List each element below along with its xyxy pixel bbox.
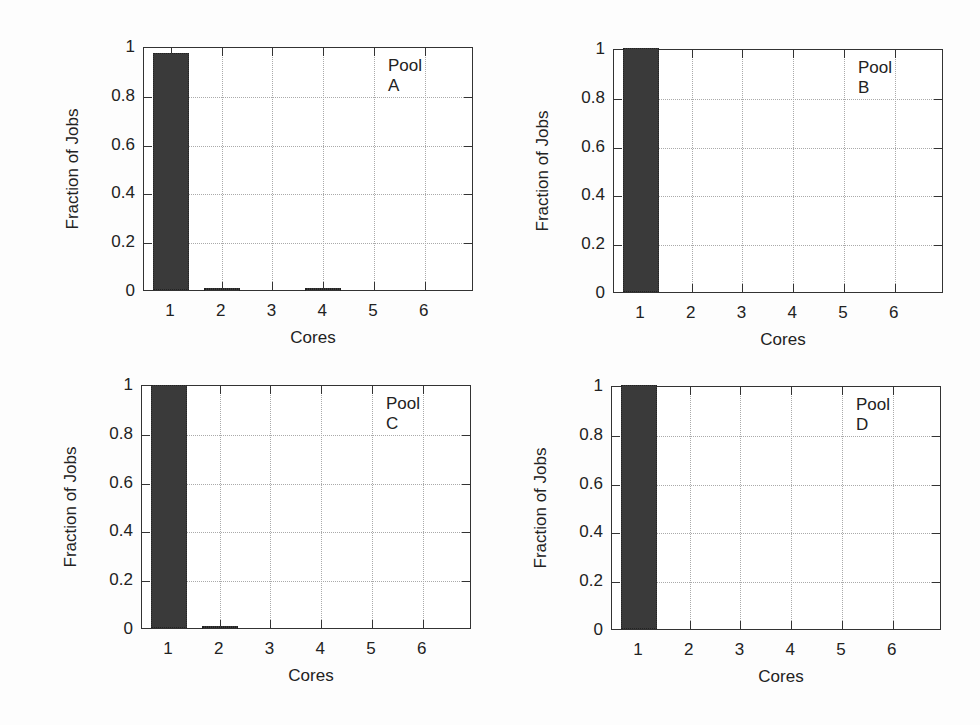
y-tick [932, 436, 940, 437]
y-tick-label: 0.4 [563, 523, 603, 540]
x-tick [895, 50, 896, 58]
gridline-horizontal [614, 196, 942, 197]
bar-cores-2 [202, 626, 238, 628]
y-tick-label: 0.2 [93, 571, 133, 588]
x-tick-label: 1 [160, 302, 180, 319]
y-tick [462, 581, 470, 582]
x-tick [423, 620, 424, 628]
x-tick [374, 282, 375, 290]
y-tick-label: 0.2 [565, 235, 605, 252]
plot-area [141, 385, 471, 629]
y-tick-label: 0.6 [563, 475, 603, 492]
y-tick-label: 0 [93, 620, 133, 637]
x-tick [893, 621, 894, 629]
x-tick-label: 1 [628, 641, 648, 658]
gridline-vertical [272, 48, 273, 290]
bar-cores-1 [621, 385, 657, 629]
x-tick [270, 386, 271, 394]
y-tick [612, 485, 620, 486]
y-tick [934, 148, 942, 149]
gridline-horizontal [614, 99, 942, 100]
y-tick-label: 1 [565, 40, 605, 57]
y-tick [462, 532, 470, 533]
y-tick-label: 0.6 [565, 138, 605, 155]
bar-cores-1 [623, 48, 659, 292]
x-tick-label: 2 [679, 641, 699, 658]
y-axis-title: Fraction of Jobs [531, 428, 551, 588]
y-tick-label: 0.6 [95, 136, 135, 153]
x-tick [844, 284, 845, 292]
gridline-vertical [321, 386, 322, 628]
gridline-vertical [690, 387, 691, 629]
bar-cores-2 [204, 288, 240, 290]
y-tick [614, 99, 622, 100]
x-tick [793, 50, 794, 58]
gridline-horizontal [142, 484, 470, 485]
gridline-horizontal [612, 533, 940, 534]
x-tick-label: 1 [158, 640, 178, 657]
pool-label: Pool B [858, 58, 892, 98]
x-tick [842, 387, 843, 395]
x-tick [374, 48, 375, 56]
y-tick-label: 1 [563, 377, 603, 394]
x-tick [893, 387, 894, 395]
x-tick [793, 284, 794, 292]
gridline-vertical [740, 387, 741, 629]
x-tick [692, 50, 693, 58]
y-tick-label: 0.4 [93, 522, 133, 539]
y-tick [464, 243, 472, 244]
x-axis-title: Cores [261, 666, 361, 686]
x-tick-label: 6 [884, 304, 904, 321]
x-tick-label: 2 [681, 304, 701, 321]
y-tick [144, 194, 152, 195]
bar-cores-1 [151, 385, 187, 628]
y-tick [144, 146, 152, 147]
y-tick [462, 435, 470, 436]
y-tick [934, 99, 942, 100]
y-tick [462, 484, 470, 485]
y-tick [142, 484, 150, 485]
x-tick [323, 48, 324, 56]
y-tick [142, 581, 150, 582]
y-tick-label: 0.8 [565, 89, 605, 106]
x-tick [321, 386, 322, 394]
x-tick-label: 6 [882, 641, 902, 658]
bar-cores-4 [305, 288, 341, 290]
x-tick [425, 48, 426, 56]
y-tick-label: 1 [93, 376, 133, 393]
gridline-horizontal [144, 194, 472, 195]
gridline-horizontal [612, 485, 940, 486]
x-tick [791, 621, 792, 629]
y-tick-label: 0.8 [93, 425, 133, 442]
y-tick-label: 0 [95, 282, 135, 299]
y-tick [932, 533, 940, 534]
x-tick [742, 50, 743, 58]
gridline-horizontal [612, 436, 940, 437]
x-tick [690, 387, 691, 395]
x-tick [740, 387, 741, 395]
x-tick [222, 48, 223, 56]
y-tick [934, 196, 942, 197]
x-tick [423, 386, 424, 394]
pool-label: Pool C [386, 394, 420, 434]
y-tick [612, 533, 620, 534]
x-tick-label: 3 [731, 304, 751, 321]
y-axis-title: Fraction of Jobs [533, 91, 553, 251]
x-tick [321, 620, 322, 628]
y-axis-title: Fraction of Jobs [61, 427, 81, 587]
y-tick-label: 0.2 [563, 572, 603, 589]
gridline-vertical [791, 387, 792, 629]
gridline-vertical [372, 386, 373, 628]
x-tick [791, 387, 792, 395]
plot-area [143, 47, 473, 291]
y-tick [464, 97, 472, 98]
gridline-vertical [222, 48, 223, 290]
y-tick-label: 0.8 [95, 87, 135, 104]
gridline-vertical [742, 50, 743, 292]
x-tick [270, 620, 271, 628]
gridline-horizontal [144, 146, 472, 147]
x-tick [372, 386, 373, 394]
x-tick [844, 50, 845, 58]
x-tick [425, 282, 426, 290]
gridline-vertical [270, 386, 271, 628]
